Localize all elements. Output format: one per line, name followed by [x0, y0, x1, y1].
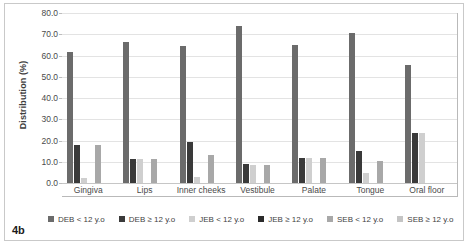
- bar[interactable]: [137, 159, 143, 183]
- bar[interactable]: [250, 165, 256, 183]
- bar-group: [401, 13, 457, 183]
- bar-group: [175, 13, 231, 183]
- legend-swatch-icon: [258, 216, 264, 222]
- y-axis-tick: [59, 183, 62, 184]
- y-axis-tick-label: 80.0: [41, 8, 58, 18]
- bar[interactable]: [412, 133, 418, 183]
- bar[interactable]: [67, 52, 73, 183]
- x-axis-line: [62, 183, 457, 184]
- x-axis-category-label: Inner cheeks: [177, 185, 226, 195]
- legend-item[interactable]: SEB < 12 y.o: [327, 215, 383, 224]
- legend-item[interactable]: JEB ≥ 12 y.o: [258, 215, 313, 224]
- figure-label: 4b: [12, 224, 25, 236]
- legend-item[interactable]: DEB < 12 y.o: [48, 215, 105, 224]
- legend-swatch-icon: [189, 216, 195, 222]
- bar[interactable]: [306, 158, 312, 184]
- legend-swatch-icon: [48, 216, 54, 222]
- bar[interactable]: [95, 145, 101, 183]
- x-axis-category-label: Vestibule: [240, 185, 275, 195]
- bar-group: [118, 13, 174, 183]
- legend-item[interactable]: DEB ≥ 12 y.o: [119, 215, 175, 224]
- bar[interactable]: [264, 165, 270, 183]
- bar[interactable]: [349, 33, 355, 183]
- y-axis-tick-label: 50.0: [41, 72, 58, 82]
- legend-label: JEB < 12 y.o: [199, 215, 244, 224]
- legend-swatch-icon: [119, 216, 125, 222]
- bar[interactable]: [74, 145, 80, 183]
- bar[interactable]: [123, 42, 129, 183]
- bar[interactable]: [130, 159, 136, 183]
- legend-item[interactable]: SEB ≥ 12 y.o: [397, 215, 453, 224]
- x-axis-category-label: Oral floor: [409, 185, 444, 195]
- x-axis-category-label: Lips: [137, 185, 153, 195]
- bar[interactable]: [292, 45, 298, 183]
- legend-label: SEB ≥ 12 y.o: [407, 215, 453, 224]
- y-axis-tick-label: 10.0: [41, 157, 58, 167]
- bar-group: [62, 13, 118, 183]
- bar[interactable]: [180, 46, 186, 183]
- bar-group: [288, 13, 344, 183]
- bar[interactable]: [405, 65, 411, 183]
- bar[interactable]: [208, 155, 214, 183]
- bar-group: [231, 13, 287, 183]
- bar[interactable]: [419, 133, 425, 183]
- bar[interactable]: [356, 151, 362, 183]
- bar[interactable]: [236, 26, 242, 183]
- legend-label: DEB ≥ 12 y.o: [129, 215, 175, 224]
- y-axis-tick-label: 30.0: [41, 114, 58, 124]
- bar[interactable]: [81, 178, 87, 183]
- x-axis-category-label: Palate: [302, 185, 326, 195]
- y-axis-tick-label: 70.0: [41, 29, 58, 39]
- x-axis-category-label: Gingiva: [74, 185, 103, 195]
- x-axis-category-labels: GingivaLipsInner cheeksVestibulePalateTo…: [62, 185, 457, 199]
- y-axis-tick-label: 20.0: [41, 136, 58, 146]
- y-axis-tick-label: 40.0: [41, 93, 58, 103]
- bar[interactable]: [320, 158, 326, 184]
- bar[interactable]: [299, 158, 305, 184]
- bar[interactable]: [151, 159, 157, 183]
- y-axis-tick-label: 0.0: [46, 178, 58, 188]
- bar[interactable]: [194, 177, 200, 183]
- bar[interactable]: [187, 142, 193, 183]
- legend-label: JEB ≥ 12 y.o: [268, 215, 313, 224]
- legend-label: SEB < 12 y.o: [337, 215, 383, 224]
- legend-swatch-icon: [397, 216, 403, 222]
- figure-4b: Distribution (%) 0.010.020.030.040.050.0…: [0, 0, 468, 248]
- bar[interactable]: [363, 173, 369, 183]
- bar[interactable]: [243, 164, 249, 183]
- legend-label: DEB < 12 y.o: [58, 215, 105, 224]
- legend-item[interactable]: JEB < 12 y.o: [189, 215, 244, 224]
- bar[interactable]: [377, 161, 383, 183]
- bars-layer: [62, 13, 457, 183]
- legend-swatch-icon: [327, 216, 333, 222]
- y-axis-tick-labels: 0.010.020.030.040.050.060.070.080.0: [22, 13, 58, 183]
- chart-legend: DEB < 12 y.oDEB ≥ 12 y.oJEB < 12 y.oJEB …: [48, 212, 448, 226]
- x-axis-category-label: Tongue: [356, 185, 384, 195]
- y-axis-tick-label: 60.0: [41, 51, 58, 61]
- bar-group: [344, 13, 400, 183]
